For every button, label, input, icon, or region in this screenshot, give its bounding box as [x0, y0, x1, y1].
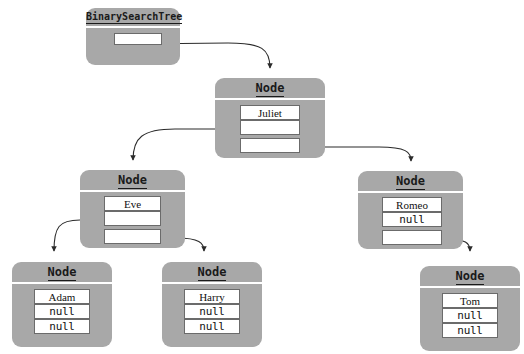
- bst-root-field[interactable]: [114, 33, 162, 45]
- node-right-field[interactable]: [382, 230, 442, 245]
- node-right-field[interactable]: null: [34, 319, 90, 334]
- title-divider: [86, 26, 180, 28]
- node-right-field[interactable]: null: [442, 323, 498, 338]
- node-left-field[interactable]: null: [184, 304, 240, 319]
- node-title: Node: [358, 171, 463, 187]
- node-box-juliet[interactable]: Node Juliet: [215, 78, 325, 158]
- node-title: Node: [162, 262, 262, 278]
- node-value-field[interactable]: Adam: [34, 289, 90, 304]
- node-value-field[interactable]: Harry: [184, 289, 240, 304]
- node-value-field[interactable]: Tom: [442, 293, 498, 308]
- node-value-field[interactable]: Romeo: [382, 197, 442, 212]
- node-value-field[interactable]: Juliet: [240, 105, 300, 120]
- node-box-harry[interactable]: Node Harry null null: [162, 262, 262, 347]
- title-divider: [12, 282, 112, 284]
- node-value-field[interactable]: Eve: [104, 196, 161, 211]
- title-divider: [80, 190, 185, 192]
- title-divider: [358, 191, 463, 193]
- node-right-field[interactable]: [104, 229, 161, 244]
- node-box-romeo[interactable]: Node Romeo null: [358, 171, 463, 249]
- node-title: Node: [80, 170, 185, 186]
- node-box-eve[interactable]: Node Eve: [80, 170, 185, 248]
- node-left-field[interactable]: null: [442, 308, 498, 323]
- node-left-field[interactable]: [240, 120, 300, 135]
- binarysearchtree-title: BinarySearchTree: [86, 8, 180, 22]
- title-divider: [420, 286, 520, 288]
- node-right-field[interactable]: null: [184, 319, 240, 334]
- node-left-field[interactable]: null: [34, 304, 90, 319]
- binarysearchtree-box[interactable]: BinarySearchTree: [86, 8, 180, 65]
- node-left-field[interactable]: null: [382, 212, 442, 227]
- node-right-field[interactable]: [240, 138, 300, 153]
- title-divider: [215, 98, 325, 100]
- node-title: Node: [420, 266, 520, 282]
- node-box-tom[interactable]: Node Tom null null: [420, 266, 520, 351]
- diagram-canvas: BinarySearchTree Node Juliet Node Eve No…: [0, 0, 524, 354]
- node-title: Node: [215, 78, 325, 94]
- title-divider: [162, 282, 262, 284]
- node-box-adam[interactable]: Node Adam null null: [12, 262, 112, 347]
- node-left-field[interactable]: [104, 211, 161, 226]
- node-title: Node: [12, 262, 112, 278]
